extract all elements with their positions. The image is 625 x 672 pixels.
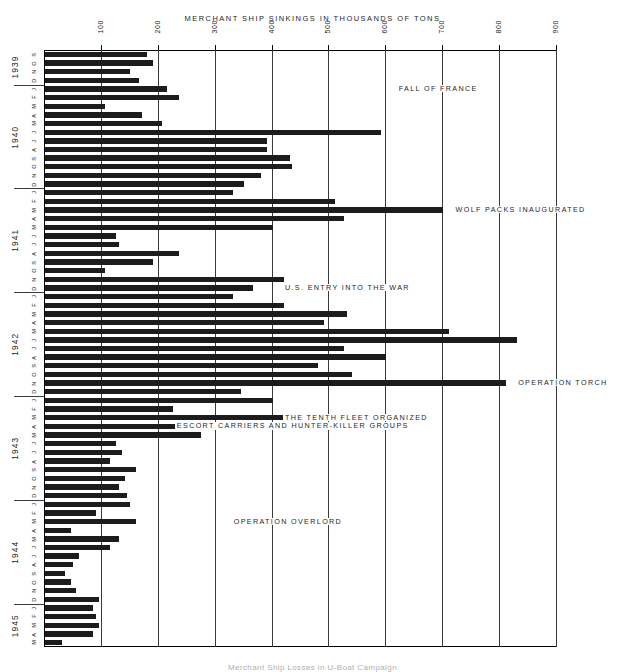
month-label-1944-J: J bbox=[32, 543, 42, 552]
x-tick-label-600: 600 bbox=[381, 20, 388, 33]
bar-1941-J bbox=[45, 190, 233, 195]
bar-1941-M bbox=[45, 207, 443, 212]
x-tick-label-400: 400 bbox=[268, 20, 275, 33]
bar-1945-M bbox=[45, 640, 62, 645]
annotation-wolf-packs-inaugurated: WOLF PACKS INAUGURATED bbox=[454, 206, 588, 213]
bar-1942-J bbox=[45, 294, 233, 299]
bar-1942-S bbox=[45, 363, 318, 368]
month-label-1939-S: S bbox=[32, 50, 42, 59]
month-label-1940-O: O bbox=[32, 162, 42, 171]
month-label-1942-F: F bbox=[32, 301, 42, 310]
month-label-1940-A: A bbox=[32, 145, 42, 154]
x-tick-label-700: 700 bbox=[438, 20, 445, 33]
bar-1944-N bbox=[45, 588, 76, 593]
month-label-1940-M: M bbox=[32, 102, 42, 111]
annotation-fall-of-france: FALL OF FRANCE bbox=[397, 85, 480, 92]
month-label-1942-J: J bbox=[32, 292, 42, 301]
bar-1944-M bbox=[45, 519, 136, 524]
month-label-1941-F: F bbox=[32, 197, 42, 206]
tick-mark-700 bbox=[442, 45, 443, 50]
bar-1942-M bbox=[45, 311, 347, 316]
bar-1943-F bbox=[45, 406, 173, 411]
year-label-1943: 1943 bbox=[11, 396, 19, 500]
year-divider-1943 bbox=[14, 396, 44, 397]
annotation-the-tenth-fleet-organized: THE TENTH FLEET ORGANIZED bbox=[283, 414, 430, 421]
bar-1943-J bbox=[45, 450, 122, 455]
bar-1942-N bbox=[45, 380, 506, 385]
annotation-operation-overlord: OPERATION OVERLORD bbox=[232, 518, 344, 525]
bar-1943-J bbox=[45, 398, 273, 403]
bar-1941-S bbox=[45, 259, 153, 264]
bar-1941-J bbox=[45, 242, 119, 247]
month-label-1944-A: A bbox=[32, 526, 42, 535]
bar-1940-N bbox=[45, 173, 261, 178]
tick-mark-900 bbox=[556, 45, 557, 50]
bar-1940-J bbox=[45, 130, 381, 135]
month-label-1942-S: S bbox=[32, 361, 42, 370]
bar-1940-A bbox=[45, 112, 142, 117]
gridline-900 bbox=[556, 50, 557, 647]
bar-1942-J bbox=[45, 346, 344, 351]
bar-1943-D bbox=[45, 493, 127, 498]
bar-1939-N bbox=[45, 69, 130, 74]
bar-1943-A bbox=[45, 458, 110, 463]
bar-1944-M bbox=[45, 536, 119, 541]
bar-1940-F bbox=[45, 95, 179, 100]
tick-mark-800 bbox=[499, 45, 500, 50]
month-label-1941-O: O bbox=[32, 266, 42, 275]
bar-1941-A bbox=[45, 216, 344, 221]
tick-mark-200 bbox=[158, 45, 159, 50]
bar-1943-M bbox=[45, 432, 201, 437]
bar-1944-J bbox=[45, 553, 79, 558]
bar-1940-A bbox=[45, 147, 267, 152]
bar-1941-F bbox=[45, 199, 335, 204]
tick-mark-300 bbox=[215, 45, 216, 50]
bar-1940-M bbox=[45, 104, 105, 109]
year-divider-1942 bbox=[14, 292, 44, 293]
year-label-1939: 1939 bbox=[11, 50, 19, 85]
x-tick-label-800: 800 bbox=[495, 20, 502, 33]
bar-1941-O bbox=[45, 268, 105, 273]
month-label-1944-M: M bbox=[32, 517, 42, 526]
month-label-1940-F: F bbox=[32, 93, 42, 102]
month-label-1942-M: M bbox=[32, 327, 42, 336]
bar-1944-A bbox=[45, 562, 73, 567]
figure-caption: Merchant Ship Losses in U-Boat Campaign bbox=[0, 663, 625, 672]
year-label-1941: 1941 bbox=[11, 188, 19, 292]
bar-1939-O bbox=[45, 60, 153, 65]
month-label-1943-A: A bbox=[32, 422, 42, 431]
month-label-1940-A: A bbox=[32, 111, 42, 120]
month-label-1942-M: M bbox=[32, 310, 42, 319]
bar-1939-D bbox=[45, 78, 139, 83]
month-label-1939-N: N bbox=[32, 67, 42, 76]
month-label-1940-J: J bbox=[32, 137, 42, 146]
bar-1945-J bbox=[45, 605, 93, 610]
bar-1940-D bbox=[45, 181, 244, 186]
month-label-1941-S: S bbox=[32, 258, 42, 267]
year-label-1944: 1944 bbox=[11, 500, 19, 604]
bar-1940-J bbox=[45, 86, 167, 91]
bar-1943-N bbox=[45, 484, 119, 489]
bar-1944-S bbox=[45, 571, 65, 576]
month-label-1941-D: D bbox=[32, 284, 42, 293]
month-label-1944-N: N bbox=[32, 586, 42, 595]
month-label-1943-D: D bbox=[32, 491, 42, 500]
x-tick-label-200: 200 bbox=[154, 20, 161, 33]
month-label-1943-S: S bbox=[32, 465, 42, 474]
bar-1945-F bbox=[45, 614, 96, 619]
bar-1940-O bbox=[45, 164, 292, 169]
bar-1944-J bbox=[45, 545, 110, 550]
month-label-1944-S: S bbox=[32, 569, 42, 578]
month-label-1944-M: M bbox=[32, 535, 42, 544]
bar-1941-D bbox=[45, 285, 253, 290]
month-label-1941-J: J bbox=[32, 240, 42, 249]
bar-1941-M bbox=[45, 225, 273, 230]
bar-1944-F bbox=[45, 510, 96, 515]
month-label-1943-M: M bbox=[32, 413, 42, 422]
year-label-1942: 1942 bbox=[11, 292, 19, 396]
tick-mark-500 bbox=[328, 45, 329, 50]
month-label-1940-M: M bbox=[32, 119, 42, 128]
month-label-1944-F: F bbox=[32, 509, 42, 518]
bar-1943-O bbox=[45, 476, 125, 481]
